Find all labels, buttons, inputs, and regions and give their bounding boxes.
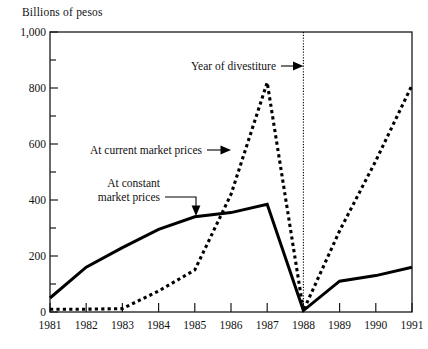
y-tick-label: 800 xyxy=(29,82,47,94)
y-tick-label: 1,000 xyxy=(20,26,46,39)
y-tick-label: 200 xyxy=(29,250,47,262)
annotation-current-prices-label: At current market prices xyxy=(90,144,203,157)
x-tick-label: 1985 xyxy=(183,319,206,331)
series-constant-market-prices xyxy=(50,204,412,310)
chart-figure: Billions of pesos 1,000 800 600 400 xyxy=(0,0,428,349)
annotation-constant-prices-label-line1: At constant xyxy=(107,177,161,189)
annotation-year-of-divestiture: Year of divestiture xyxy=(191,60,303,72)
x-tick-label: 1984 xyxy=(147,319,170,331)
y-tick-label: 400 xyxy=(29,194,47,206)
annotation-constant-market-prices: At constant market prices xyxy=(98,177,201,216)
x-tick-label: 1986 xyxy=(220,319,243,331)
arrowhead-icon xyxy=(293,62,303,71)
x-tick-label: 1983 xyxy=(111,319,134,331)
x-tick-label: 1991 xyxy=(401,319,424,331)
y-tick-label: 0 xyxy=(40,306,46,318)
annotation-divestiture-label: Year of divestiture xyxy=(191,60,276,72)
arrowhead-icon xyxy=(221,146,232,155)
x-tick-label: 1982 xyxy=(75,319,98,331)
x-tick-label: 1989 xyxy=(328,319,351,331)
y-minor-ticks xyxy=(50,60,56,284)
arrowhead-icon xyxy=(192,206,201,217)
annotation-constant-prices-label-line2: market prices xyxy=(98,191,161,204)
chart-canvas: 1,000 800 600 400 200 0 1981 1982 1983 xyxy=(0,0,428,349)
y-tick-labels: 1,000 800 600 400 200 0 xyxy=(20,26,46,318)
annotation-current-market-prices: At current market prices xyxy=(90,144,231,157)
x-tick-labels: 1981 1982 1983 1984 1985 1986 1987 1988 … xyxy=(39,319,424,331)
x-tick-label: 1988 xyxy=(292,319,315,331)
x-tick-label: 1981 xyxy=(39,319,62,331)
plot-frame xyxy=(50,32,412,312)
x-tick-label: 1987 xyxy=(256,319,279,331)
x-tick-label: 1990 xyxy=(364,319,387,331)
y-tick-label: 600 xyxy=(29,138,47,150)
